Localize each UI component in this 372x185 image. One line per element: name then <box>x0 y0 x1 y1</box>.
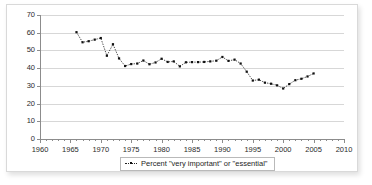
data-point-marker <box>215 60 217 62</box>
x-tick-major <box>344 139 345 143</box>
x-tick-minor <box>259 139 260 141</box>
x-tick-minor <box>168 139 169 141</box>
data-point-marker <box>191 61 193 63</box>
y-axis-tick-label: 50 <box>27 47 35 55</box>
x-tick-minor <box>180 139 181 141</box>
x-axis-tick-label: 1980 <box>153 146 170 154</box>
x-tick-minor <box>320 139 321 141</box>
x-tick-minor <box>228 139 229 141</box>
x-tick-minor <box>289 139 290 141</box>
x-tick-minor <box>216 139 217 141</box>
data-point-marker <box>136 62 138 64</box>
x-axis-tick-label: 2000 <box>275 146 292 154</box>
x-tick-minor <box>332 139 333 141</box>
x-axis-tick-label: 2010 <box>336 146 353 154</box>
x-axis-tick-label: 1990 <box>214 146 231 154</box>
x-tick-minor <box>113 139 114 141</box>
data-point-marker <box>282 87 284 89</box>
x-tick-minor <box>271 139 272 141</box>
data-point-marker <box>106 55 108 57</box>
x-tick-minor <box>247 139 248 141</box>
y-axis-tick-label: 40 <box>27 64 35 72</box>
x-tick-minor <box>198 139 199 141</box>
x-tick-minor <box>52 139 53 141</box>
x-tick-minor <box>58 139 59 141</box>
x-tick-minor <box>301 139 302 141</box>
plot-area: 010203040506070 196019651970197519801985… <box>40 15 344 139</box>
x-tick-minor <box>174 139 175 141</box>
data-point-marker <box>197 61 199 63</box>
x-tick-major <box>253 139 254 143</box>
x-axis-tick-label: 1995 <box>244 146 261 154</box>
x-tick-major <box>222 139 223 143</box>
x-tick-minor <box>83 139 84 141</box>
x-tick-minor <box>186 139 187 141</box>
data-point-marker <box>112 43 114 45</box>
data-point-marker <box>306 75 308 77</box>
data-series-line <box>40 15 344 139</box>
x-tick-minor <box>277 139 278 141</box>
x-tick-minor <box>46 139 47 141</box>
data-point-marker <box>161 58 163 60</box>
x-tick-minor <box>156 139 157 141</box>
data-point-marker <box>167 61 169 63</box>
chart-screenshot: 010203040506070 196019651970197519801985… <box>0 0 372 185</box>
data-point-marker <box>179 65 181 67</box>
data-point-marker <box>270 83 272 85</box>
data-point-marker <box>154 61 156 63</box>
x-tick-minor <box>204 139 205 141</box>
x-tick-minor <box>308 139 309 141</box>
x-tick-minor <box>137 139 138 141</box>
x-tick-minor <box>295 139 296 141</box>
legend-marker-icon <box>125 160 137 167</box>
x-tick-minor <box>210 139 211 141</box>
x-tick-minor <box>149 139 150 141</box>
x-tick-major <box>162 139 163 143</box>
data-point-marker <box>88 40 90 42</box>
x-tick-minor <box>89 139 90 141</box>
data-point-marker <box>81 41 83 43</box>
legend-entry-label: Percent "very important" or "essential" <box>141 160 268 168</box>
data-point-marker <box>240 62 242 64</box>
x-tick-major <box>101 139 102 143</box>
data-point-marker <box>142 59 144 61</box>
chart-card: 010203040506070 196019651970197519801985… <box>6 4 358 172</box>
y-axis-tick-label: 30 <box>27 82 35 90</box>
x-axis-tick-label: 1975 <box>123 146 140 154</box>
data-point-marker <box>313 72 315 74</box>
x-axis-tick-label: 1965 <box>62 146 79 154</box>
x-tick-major <box>131 139 132 143</box>
data-point-marker <box>75 31 77 33</box>
data-point-marker <box>118 57 120 59</box>
x-tick-minor <box>125 139 126 141</box>
x-tick-major <box>40 139 41 143</box>
x-tick-minor <box>265 139 266 141</box>
data-point-marker <box>252 79 254 81</box>
data-point-marker <box>288 83 290 85</box>
x-tick-minor <box>95 139 96 141</box>
x-tick-minor <box>64 139 65 141</box>
y-axis-tick-label: 70 <box>27 11 35 19</box>
x-tick-minor <box>326 139 327 141</box>
y-axis-tick-label: 10 <box>27 118 35 126</box>
data-point-marker <box>258 79 260 81</box>
data-point-marker <box>221 56 223 58</box>
data-point-marker <box>264 82 266 84</box>
data-point-marker <box>203 61 205 63</box>
y-axis-tick-label: 0 <box>31 135 35 143</box>
x-tick-major <box>283 139 284 143</box>
data-point-marker <box>94 39 96 41</box>
x-axis-tick-label: 1985 <box>184 146 201 154</box>
x-tick-major <box>70 139 71 143</box>
data-point-marker <box>227 60 229 62</box>
x-axis-tick-label: 1970 <box>92 146 109 154</box>
x-tick-minor <box>338 139 339 141</box>
x-axis-tick-label: 1960 <box>32 146 49 154</box>
x-axis-tick-label: 2005 <box>305 146 322 154</box>
x-tick-minor <box>119 139 120 141</box>
data-point-marker <box>233 59 235 61</box>
data-point-marker <box>148 63 150 65</box>
data-point-marker <box>246 71 248 73</box>
data-point-marker <box>185 61 187 63</box>
data-point-marker <box>294 79 296 81</box>
